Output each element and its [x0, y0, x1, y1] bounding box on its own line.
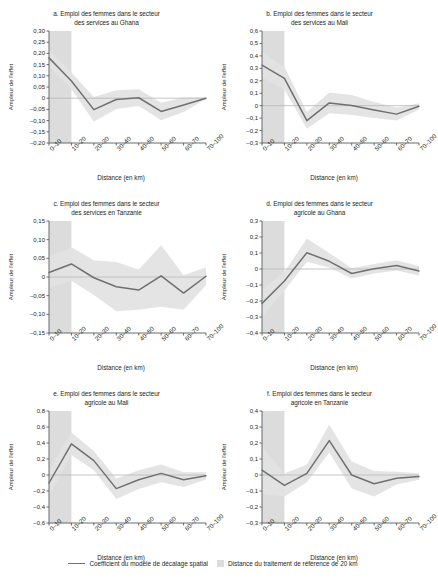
y-tick-label: 0,15 [33, 62, 45, 68]
y-tick-label: –0,15 [30, 129, 45, 135]
panel-b: b. Emploi des femmes dans le secteurdes … [213, 0, 426, 190]
y-tick-label: 0,5 [250, 40, 258, 46]
y-tick-label: 0,05 [33, 255, 45, 261]
y-tick-label: 0,4 [250, 53, 258, 59]
y-tick-label: –0,6 [33, 520, 45, 526]
y-tick-label: –0,2 [246, 504, 258, 510]
y-tick-label: –0,2 [246, 128, 258, 134]
panel-a: a. Emploi des femmes dans le secteurdes … [0, 0, 213, 190]
y-tick-label: –0,1 [246, 115, 258, 121]
legend-band-label: Distance du traitement de référence de 2… [228, 560, 358, 567]
y-tick-label: 0,4 [37, 440, 45, 446]
confidence-interval-band [262, 52, 419, 129]
y-tick-label: 0,1 [250, 456, 258, 462]
y-tick-label: –0,3 [246, 314, 258, 320]
y-tick-label: –0,10 [30, 118, 45, 124]
panel-d: d. Emploi des femmes dans le secteuragri… [213, 190, 426, 380]
x-axis-label: Distance (en km) [213, 364, 426, 371]
y-tick-label: –0,4 [246, 330, 258, 336]
y-axis-label: Ampleur de l'effet [8, 31, 18, 143]
y-tick-label: 0 [255, 472, 258, 478]
panel-f: f. Emploi des femmes dans le secteuragri… [213, 380, 426, 570]
y-tick-label: –0,2 [246, 298, 258, 304]
y-tick-label: 0,20 [33, 50, 45, 56]
y-tick-label: 0,2 [250, 78, 258, 84]
reference-band [49, 31, 71, 143]
y-axis-label: Ampleur de l'effet [8, 221, 18, 333]
y-tick-label: 0,10 [33, 237, 45, 243]
figure-legend: Coefficient du modèle de décalage spatia… [0, 560, 426, 567]
y-tick-label: –0,05 [30, 106, 45, 112]
y-tick-label: –0,10 [30, 311, 45, 317]
y-tick-label: –0,3 [246, 140, 258, 146]
confidence-interval-band [49, 433, 206, 499]
y-tick-label: –0,15 [30, 330, 45, 336]
legend-line-swatch [68, 563, 85, 565]
y-tick-label: 0,05 [33, 84, 45, 90]
panel-grid: a. Emploi des femmes dans le secteurdes … [0, 0, 426, 570]
y-tick-label: 0,25 [33, 39, 45, 45]
y-tick-label: 0,4 [250, 408, 258, 414]
y-tick-label: 0,30 [33, 28, 45, 34]
confidence-interval-band [49, 49, 206, 122]
x-axis-label: Distance (en km) [0, 364, 213, 371]
plot-area-e [0, 380, 213, 570]
y-tick-label: –0,05 [30, 293, 45, 299]
y-tick-label: 0,6 [250, 28, 258, 34]
y-tick-label: 0,8 [37, 408, 45, 414]
confidence-interval-band [262, 239, 419, 317]
y-tick-label: 0 [42, 274, 45, 280]
plot-area-f [213, 380, 426, 570]
y-tick-label: 0 [42, 472, 45, 478]
y-axis-label: Ampleur de l'effet [221, 31, 231, 143]
y-tick-label: –0,3 [246, 520, 258, 526]
confidence-interval-band [262, 425, 419, 497]
x-axis-label: Distance (en km) [213, 174, 426, 181]
y-tick-label: 0,3 [250, 65, 258, 71]
y-tick-label: 0 [255, 266, 258, 272]
plot-area-d [213, 190, 426, 380]
plot-area-b [213, 0, 426, 190]
y-tick-label: 0,1 [250, 90, 258, 96]
panel-c: c. Emploi des femmes dans le secteurdes … [0, 190, 213, 380]
y-tick-label: –0,1 [246, 282, 258, 288]
y-tick-label: 0,10 [33, 73, 45, 79]
y-tick-label: 0 [255, 103, 258, 109]
x-axis-label: Distance (en km) [0, 174, 213, 181]
y-tick-label: 0,15 [33, 218, 45, 224]
legend-item-line: Coefficient du modèle de décalage spatia… [68, 560, 208, 567]
y-tick-label: 0,2 [37, 456, 45, 462]
plot-area-a [0, 0, 213, 190]
y-tick-label: 0,6 [37, 424, 45, 430]
y-tick-label: 0,1 [250, 250, 258, 256]
y-tick-label: –0,1 [246, 488, 258, 494]
y-tick-label: 0,2 [250, 234, 258, 240]
y-tick-label: –0,20 [30, 140, 45, 146]
y-tick-label: 0,3 [250, 424, 258, 430]
y-axis-label: Ampleur de l'effet [221, 411, 231, 523]
y-axis-label: Ampleur de l'effet [8, 411, 18, 523]
y-tick-label: –0,4 [33, 504, 45, 510]
legend-band-swatch [217, 560, 224, 567]
panel-e: e. Emploi des femmes dans le secteuragri… [0, 380, 213, 570]
confidence-interval-band [49, 245, 206, 311]
y-tick-label: –0,2 [33, 488, 45, 494]
y-axis-label: Ampleur de l'effet [221, 221, 231, 333]
y-tick-label: 0,2 [250, 440, 258, 446]
y-tick-label: 0 [42, 95, 45, 101]
plot-area-c [0, 190, 213, 380]
y-tick-label: 0,3 [250, 218, 258, 224]
legend-item-band: Distance du traitement de référence de 2… [217, 560, 358, 567]
legend-line-label: Coefficient du modèle de décalage spatia… [89, 560, 208, 567]
